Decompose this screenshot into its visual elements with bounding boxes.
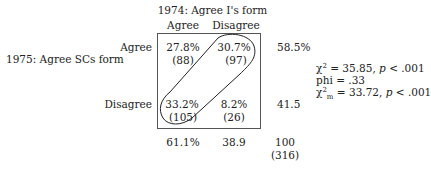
chi-m-value: = 33.72, bbox=[333, 86, 385, 98]
col-total-agree: 61.1% bbox=[158, 136, 208, 148]
column-header-agree: Agree bbox=[158, 19, 208, 31]
cell-agree-disagree-pct: 30.7% bbox=[209, 41, 259, 53]
cell-disagree-disagree-pct: 8.2% bbox=[209, 98, 259, 110]
stat-chi-square: χ2 = 35.85, p < .001 bbox=[316, 62, 425, 74]
p-value: < .001 bbox=[386, 62, 425, 74]
cell-agree-agree-pct: 27.8% bbox=[158, 41, 208, 53]
stat-chi-square-m: χ2m = 33.72, p < .001 bbox=[316, 86, 431, 98]
column-header-disagree: Disagree bbox=[208, 19, 264, 31]
p-label: p bbox=[379, 62, 386, 74]
p2-value: < .001 bbox=[392, 86, 431, 98]
col-total-disagree: 38.9 bbox=[209, 136, 259, 148]
chi-value: = 35.85, bbox=[327, 62, 379, 74]
cell-agree-disagree-n: (97) bbox=[211, 54, 261, 66]
cell-agree-agree-n: (88) bbox=[158, 54, 208, 66]
column-title: 1974: Agree I's form bbox=[150, 4, 275, 16]
grand-total-n: (316) bbox=[265, 149, 305, 161]
row-header-agree: Agree bbox=[60, 41, 152, 53]
grand-total-pct: 100 bbox=[265, 136, 305, 148]
row-total-disagree: 41.5 bbox=[277, 98, 300, 110]
stat-phi: phi = .33 bbox=[316, 74, 365, 86]
row-total-agree: 58.5% bbox=[277, 41, 310, 53]
cell-disagree-agree-n: (105) bbox=[158, 111, 208, 123]
cell-disagree-agree-pct: 33.2% bbox=[157, 98, 207, 110]
row-title: 1975: Agree SCs form bbox=[6, 53, 124, 65]
cell-disagree-disagree-n: (26) bbox=[209, 111, 259, 123]
row-header-disagree: Disagree bbox=[60, 98, 152, 110]
